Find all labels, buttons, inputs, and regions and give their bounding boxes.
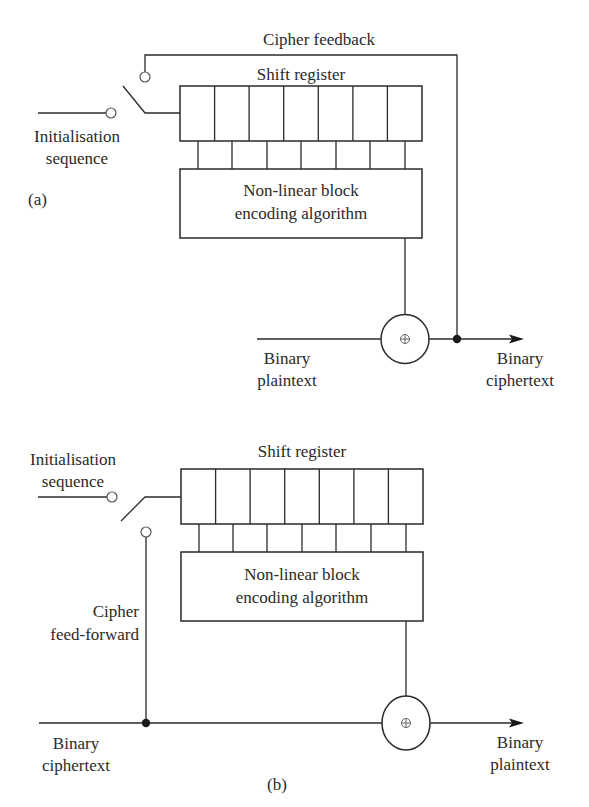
cipher-feedback-diagram: Cipher feedback Initialisation sequence … xyxy=(0,0,589,807)
selector-switch xyxy=(123,86,180,113)
xor-icon xyxy=(382,696,430,750)
panel-tag-a: (a) xyxy=(28,190,47,209)
feedforward-label-line1: Cipher xyxy=(93,602,140,621)
encoder-label-line1: Non-linear block xyxy=(243,181,359,200)
input-label-line1: Binary xyxy=(264,349,311,368)
encoder-label-line1: Non-linear block xyxy=(244,565,360,584)
feedback-terminal xyxy=(140,72,150,82)
shift-register xyxy=(181,469,423,524)
feedforward-terminal xyxy=(141,527,151,537)
junction-dot xyxy=(142,719,150,727)
feedforward-label-line2: feed-forward xyxy=(50,625,139,644)
shift-register-label: Shift register xyxy=(257,65,346,84)
output-label-line2: ciphertext xyxy=(486,371,554,390)
junction-dot xyxy=(453,335,461,343)
input-label-line2: ciphertext xyxy=(42,756,110,775)
encoder-label-line2: encoding algorithm xyxy=(236,588,369,607)
shift-register-label: Shift register xyxy=(258,442,347,461)
encoder-label-line2: encoding algorithm xyxy=(235,204,368,223)
init-label-line2: sequence xyxy=(42,472,104,491)
xor-icon xyxy=(381,315,429,364)
panel-tag-b: (b) xyxy=(267,775,287,794)
feedback-label: Cipher feedback xyxy=(263,30,375,49)
init-label-line1: Initialisation xyxy=(30,450,116,469)
init-label-line1: Initialisation xyxy=(34,127,120,146)
output-label-line1: Binary xyxy=(497,349,544,368)
encoder-block xyxy=(181,552,423,621)
input-label-line2: plaintext xyxy=(257,371,317,390)
output-label-line2: plaintext xyxy=(490,755,550,774)
init-label-line2: sequence xyxy=(46,149,108,168)
init-terminal xyxy=(107,492,117,502)
register-to-encoder-connectors xyxy=(199,524,406,552)
shift-register xyxy=(180,86,422,141)
selector-switch xyxy=(121,497,181,521)
panel-a: Cipher feedback Initialisation sequence … xyxy=(28,30,554,390)
input-label-line1: Binary xyxy=(53,734,100,753)
register-to-encoder-connectors xyxy=(198,141,405,169)
output-label-line1: Binary xyxy=(497,733,544,752)
init-terminal xyxy=(106,108,116,118)
panel-b: Initialisation sequence Cipher feed-forw… xyxy=(30,442,550,794)
